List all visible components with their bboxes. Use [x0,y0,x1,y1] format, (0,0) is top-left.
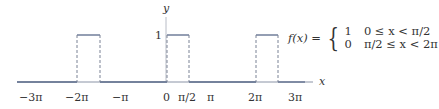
x-tick-3pi: 3π [288,91,302,104]
x-tick-minus-pi: −π [112,91,128,104]
x-tick-zero: 0 [163,91,170,104]
case2-value: 0 [345,38,352,51]
x-tick-minus-3pi: −3π [19,91,42,104]
formula-lhs: f(x) = [288,31,321,45]
x-tick-pi-half: π/2 [178,91,196,104]
case2-condition: π/2 ≤ x < 2π [364,38,438,51]
x-tick-minus-2pi: −2π [65,91,88,104]
pulse-2pi [256,35,278,82]
pulse-minus-2pi [77,35,100,82]
x-axis-label: x [319,75,326,88]
formula-cases: 1 0 ≤ x < π/2 0 π/2 ≤ x < 2π [345,25,438,51]
pulse-zero [167,35,189,82]
chart-plot: y x 1 −3π −2π −π 0 π/2 π 2π 3π [0,0,439,109]
function-definition: f(x) = { 1 0 ≤ x < π/2 0 π/2 ≤ x < 2π [288,25,438,51]
y-axis-label: y [162,2,170,15]
y-tick-one: 1 [155,29,162,42]
x-tick-pi: π [207,91,214,104]
formula-brace: { [327,25,339,51]
x-tick-2pi: 2π [248,91,262,104]
